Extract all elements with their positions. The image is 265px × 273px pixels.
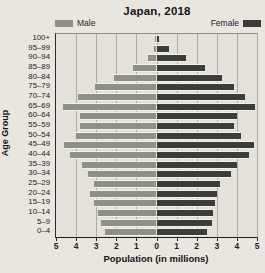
female-bar-20-24	[157, 190, 217, 198]
female-bar-25-29	[157, 180, 220, 188]
x-tick-label: 4	[74, 241, 79, 251]
chart-title: Japan, 2018	[123, 5, 190, 17]
female-bar-70-74	[157, 93, 245, 101]
female-bar-45-49	[157, 141, 254, 149]
female-bar-0-4	[157, 228, 207, 236]
female-bar-60-64	[157, 112, 237, 120]
x-tick-label: 3	[94, 241, 99, 251]
male-bar-15-19	[94, 199, 156, 207]
x-tick-label: 5	[54, 241, 59, 251]
female-bar-50-54	[157, 132, 241, 140]
age-group-label: 55–59	[16, 121, 50, 129]
x-tick-label: 1	[174, 241, 179, 251]
x-tick-label: 5	[255, 241, 260, 251]
x-tick-label: 1	[134, 241, 139, 251]
x-tick-label: 3	[214, 241, 219, 251]
male-bar-40-44	[70, 151, 156, 159]
male-bar-60-64	[80, 112, 156, 120]
age-group-label: 45–49	[16, 140, 50, 148]
male-bar-30-34	[88, 170, 156, 178]
male-legend-swatch	[55, 20, 73, 27]
male-bar-75-79	[95, 83, 156, 91]
age-group-label: 65–69	[16, 102, 50, 110]
female-bar-15-19	[157, 199, 215, 207]
age-group-label: 10–14	[16, 208, 50, 216]
female-bar-65-69	[157, 103, 255, 111]
age-group-label: 80–84	[16, 73, 50, 81]
male-bar-55-59	[80, 122, 156, 130]
female-bar-80-84	[157, 74, 222, 82]
age-group-label: 25–29	[16, 179, 50, 187]
male-bar-25-29	[94, 180, 156, 188]
age-group-label: 100+	[16, 34, 50, 42]
age-group-label: 35–39	[16, 160, 50, 168]
female-bar-85-89	[157, 64, 205, 72]
x-tick-label: 2	[114, 241, 119, 251]
x-tick-label: 4	[235, 241, 240, 251]
age-group-label: 20–24	[16, 189, 50, 197]
legend-item-female: Female	[211, 18, 261, 28]
x-tick-label: 2	[194, 241, 199, 251]
male-bar-10-14	[98, 209, 156, 217]
female-bar-95-99	[157, 45, 169, 53]
male-bar-70-74	[78, 93, 156, 101]
female-bar-100+	[157, 35, 159, 43]
female-bar-35-39	[157, 161, 237, 169]
age-group-label: 15–19	[16, 198, 50, 206]
male-bar-35-39	[82, 161, 156, 169]
female-legend-swatch	[243, 20, 261, 27]
female-bar-10-14	[157, 209, 213, 217]
population-pyramid-figure: Japan, 2018 Male Female Age Group 543210…	[0, 0, 265, 273]
male-bar-65-69	[63, 103, 156, 111]
age-group-label: 60–64	[16, 111, 50, 119]
age-group-label: 5–9	[16, 218, 50, 226]
male-legend-label: Male	[77, 18, 95, 28]
male-bar-5-9	[101, 219, 156, 227]
x-tick-label: 0	[154, 241, 159, 251]
male-bar-0-4	[105, 228, 156, 236]
female-bar-40-44	[157, 151, 249, 159]
age-group-label: 30–34	[16, 169, 50, 177]
y-axis-title: Age Group	[0, 98, 10, 168]
age-group-label: 40–44	[16, 150, 50, 158]
age-group-label: 90–94	[16, 53, 50, 61]
male-bar-80-84	[114, 74, 156, 82]
age-group-label: 50–54	[16, 131, 50, 139]
female-bar-30-34	[157, 170, 231, 178]
x-axis-title: Population (in millions)	[103, 253, 208, 264]
female-legend-label: Female	[211, 18, 239, 28]
legend-item-male: Male	[55, 18, 95, 28]
age-group-label: 85–89	[16, 63, 50, 71]
age-group-label: 95–99	[16, 44, 50, 52]
male-bar-20-24	[90, 190, 156, 198]
age-group-label: 0–4	[16, 227, 50, 235]
age-group-label: 70–74	[16, 92, 50, 100]
male-bar-85-89	[133, 64, 156, 72]
age-group-label: 75–79	[16, 82, 50, 90]
male-bar-90-94	[148, 54, 156, 62]
female-bar-55-59	[157, 122, 234, 130]
plot-area	[55, 33, 258, 238]
male-bar-50-54	[76, 132, 156, 140]
female-bar-75-79	[157, 83, 234, 91]
female-bar-90-94	[157, 54, 186, 62]
male-bar-45-49	[64, 141, 156, 149]
female-bar-5-9	[157, 219, 212, 227]
